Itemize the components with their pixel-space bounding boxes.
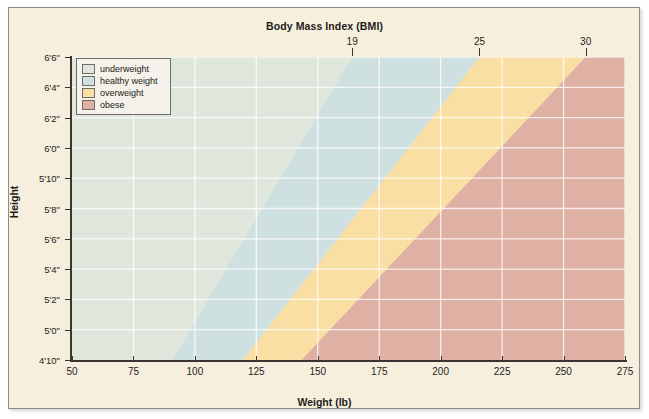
legend-item: underweight [82,63,165,74]
y-axis-tick-label: 5'10" [14,173,60,184]
y-axis-tick-mark [65,239,70,240]
y-axis-tick-mark [65,299,70,300]
y-axis-tick-mark [65,360,70,361]
x-axis-line [70,360,627,362]
y-axis-tick-mark [65,330,70,331]
x-axis-tick-label: 275 [617,366,634,377]
x-axis-tick-mark [195,356,196,361]
y-axis-tick-mark [65,209,70,210]
bmi-tick-label: 19 [347,36,358,47]
x-axis-tick-mark [564,356,565,361]
y-axis-tick-label: 6'4" [14,82,60,93]
bmi-tick-label: 25 [474,36,485,47]
bmi-tick-mark [586,48,587,56]
legend-item-label: healthy weight [100,76,158,86]
y-axis-tick-mark [65,57,70,58]
bmi-tick-label: 30 [580,36,591,47]
x-axis-tick-mark [133,356,134,361]
y-axis-tick-label: 6'6" [14,52,60,63]
legend-swatch-icon [82,76,95,86]
y-axis-line [70,56,72,362]
y-axis-tick-label: 6'0" [14,142,60,153]
bmi-tick-mark [479,48,480,56]
x-axis-tick-mark [625,356,626,361]
x-axis-tick-label: 200 [432,366,449,377]
x-axis-tick-mark [379,356,380,361]
legend-box: underweighthealthy weightoverweightobese [76,58,171,115]
x-axis-tick-label: 125 [248,366,265,377]
x-axis-tick-mark [72,356,73,361]
y-axis-tick-mark [65,148,70,149]
y-axis-tick-label: 5'8" [14,203,60,214]
y-axis-tick-label: 4'10" [14,355,60,366]
legend-item: obese [82,99,165,110]
y-axis-tick-label: 5'4" [14,264,60,275]
x-axis-tick-label: 50 [66,366,77,377]
legend-item: healthy weight [82,75,165,86]
y-axis-tick-mark [65,178,70,179]
x-axis-tick-mark [502,356,503,361]
x-axis-tick-label: 100 [187,366,204,377]
x-axis-tick-label: 150 [309,366,326,377]
y-axis-tick-mark [65,269,70,270]
x-axis-tick-mark [256,356,257,361]
y-axis-tick-mark [65,118,70,119]
legend-item-label: obese [100,100,125,110]
legend-item-label: underweight [100,64,149,74]
x-axis-tick-label: 175 [371,366,388,377]
y-axis-tick-mark [65,87,70,88]
y-axis-tick-label: 6'2" [14,112,60,123]
legend-swatch-icon [82,88,95,98]
x-axis-tick-mark [318,356,319,361]
y-axis-title: Height [8,172,20,232]
legend-item-label: overweight [100,88,144,98]
x-axis-tick-label: 225 [494,366,511,377]
legend-swatch-icon [82,64,95,74]
y-axis-tick-label: 5'6" [14,233,60,244]
x-axis-tick-mark [441,356,442,361]
top-axis-title: Body Mass Index (BMI) [0,20,649,32]
y-axis-tick-label: 5'0" [14,324,60,335]
x-axis-tick-label: 75 [128,366,139,377]
y-axis-tick-label: 5'2" [14,294,60,305]
bmi-tick-mark [352,48,353,56]
bmi-chart-figure: Body Mass Index (BMI) 192530 4'10"5'0"5'… [0,0,649,419]
legend-item: overweight [82,87,165,98]
legend-swatch-icon [82,100,95,110]
x-axis-title: Weight (lb) [0,396,649,408]
x-axis-tick-label: 250 [555,366,572,377]
